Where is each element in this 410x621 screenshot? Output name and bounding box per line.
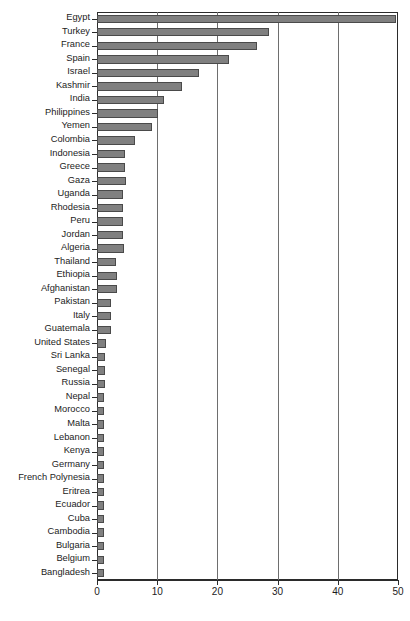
bar: [97, 366, 105, 374]
category-label: Yemen: [0, 121, 90, 130]
category-label: Spain: [0, 54, 90, 63]
category-label: Sri Lanka: [0, 351, 90, 360]
category-label: Belgium: [0, 554, 90, 563]
bar: [97, 556, 104, 564]
bar: [97, 393, 104, 401]
x-axis-tick-label: 10: [137, 587, 177, 597]
category-label: United States: [0, 338, 90, 347]
bar: [97, 244, 124, 252]
bar: [97, 488, 104, 496]
category-label: Colombia: [0, 135, 90, 144]
category-label: Kashmir: [0, 81, 90, 90]
category-label: Senegal: [0, 365, 90, 374]
bar: [97, 447, 104, 455]
category-label: Italy: [0, 311, 90, 320]
bar: [97, 528, 104, 536]
category-label: Ethiopia: [0, 270, 90, 279]
category-label: Greece: [0, 162, 90, 171]
category-label: Bulgaria: [0, 541, 90, 550]
bar: [97, 353, 105, 361]
bar: [97, 42, 257, 50]
bar: [97, 204, 123, 212]
bar: [97, 326, 111, 334]
bar: [97, 15, 396, 23]
bar: [97, 123, 152, 131]
x-axis-tick-label: 20: [197, 587, 237, 597]
x-axis-tick-label: 40: [318, 587, 358, 597]
bar: [97, 312, 111, 320]
bar: [97, 217, 123, 225]
bar: [97, 407, 104, 415]
category-label: Israel: [0, 67, 90, 76]
bar: [97, 461, 104, 469]
category-label: Lebanon: [0, 433, 90, 442]
x-axis-tick: [398, 580, 399, 585]
category-label: Rhodesia: [0, 203, 90, 212]
x-axis-tick-label: 50: [378, 587, 410, 597]
bar: [97, 190, 123, 198]
category-label: French Polynesia: [0, 473, 90, 482]
category-label: Kenya: [0, 446, 90, 455]
bar: [97, 109, 158, 117]
x-axis-tick: [157, 580, 158, 585]
bar: [97, 28, 269, 36]
bar: [97, 515, 104, 523]
bar: [97, 96, 164, 104]
x-axis-tick: [97, 580, 98, 585]
category-label: Pakistan: [0, 297, 90, 306]
category-label: Algeria: [0, 243, 90, 252]
bar: [97, 136, 135, 144]
category-label: Cuba: [0, 514, 90, 523]
bar: [97, 542, 104, 550]
bar: [97, 258, 116, 266]
bar-rows: EgyptTurkeyFranceSpainIsraelKashmirIndia…: [0, 12, 410, 580]
category-label: France: [0, 40, 90, 49]
category-label: Nepal: [0, 392, 90, 401]
bar: [97, 434, 104, 442]
x-axis-tick-label: 30: [258, 587, 298, 597]
category-label: Peru: [0, 216, 90, 225]
x-axis-tick-label: 0: [77, 587, 117, 597]
category-label: Turkey: [0, 27, 90, 36]
horizontal-bar-chart: EgyptTurkeyFranceSpainIsraelKashmirIndia…: [0, 0, 410, 621]
category-label: Cambodia: [0, 527, 90, 536]
x-axis-line: [97, 580, 398, 581]
bar: [97, 569, 104, 577]
category-label: Morocco: [0, 405, 90, 414]
bar: [97, 69, 199, 77]
x-axis-tick: [217, 580, 218, 585]
bar: [97, 177, 126, 185]
x-axis-tick: [338, 580, 339, 585]
bar: [97, 474, 104, 482]
bar: [97, 299, 111, 307]
category-label: Gaza: [0, 176, 90, 185]
category-label: Russia: [0, 378, 90, 387]
category-label: Guatemala: [0, 324, 90, 333]
category-label: Uganda: [0, 189, 90, 198]
category-label: Bangladesh: [0, 568, 90, 577]
bar: [97, 231, 123, 239]
bar: [97, 55, 229, 63]
category-label: Philippines: [0, 108, 90, 117]
bar: [97, 150, 125, 158]
x-axis-tick: [278, 580, 279, 585]
category-label: Germany: [0, 460, 90, 469]
category-label: Ecuador: [0, 500, 90, 509]
bar: [97, 163, 125, 171]
bar: [97, 339, 106, 347]
category-label: Egypt: [0, 13, 90, 22]
category-label: Eritrea: [0, 487, 90, 496]
bar: [97, 420, 104, 428]
bar: [97, 285, 117, 293]
category-label: Indonesia: [0, 149, 90, 158]
bar: [97, 501, 104, 509]
bar: [97, 82, 182, 90]
category-label: Jordan: [0, 230, 90, 239]
category-label: India: [0, 94, 90, 103]
bar: [97, 272, 117, 280]
bar: [97, 380, 105, 388]
figure-caption: [0, 610, 410, 621]
category-label: Thailand: [0, 257, 90, 266]
category-label: Malta: [0, 419, 90, 428]
category-label: Afghanistan: [0, 284, 90, 293]
